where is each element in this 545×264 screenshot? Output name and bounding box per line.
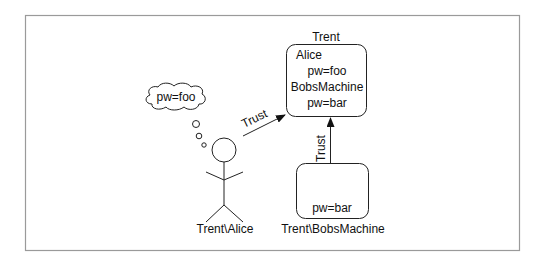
alice-trust-arrow: Trust: [239, 106, 285, 136]
trent-domain-box: Trent Alice pw=foo BobsMachine pw=bar: [287, 30, 367, 117]
user-stick-figure-icon: [206, 138, 243, 222]
thought-bubble-medium: [196, 133, 202, 139]
thought-bubble-small: [202, 143, 206, 147]
user-label: Trent\Alice: [197, 222, 254, 236]
bobs-machine-label: Trent\BobsMachine: [281, 222, 385, 236]
trent-line-alice: Alice: [296, 48, 322, 62]
bobs-machine-box: pw=bar Trent\BobsMachine: [281, 164, 385, 237]
machine-trust-arrow: Trust: [314, 118, 331, 163]
diagram-canvas: Trent Alice pw=foo BobsMachine pw=bar pw…: [0, 0, 545, 264]
machine-trust-label: Trust: [314, 134, 328, 162]
trent-box-title: Trent: [312, 30, 340, 44]
thought-cloud: pw=foo: [146, 83, 206, 147]
alice-trust-label: Trust: [239, 106, 270, 131]
trent-line-pw-foo: pw=foo: [307, 64, 346, 78]
thought-text: pw=foo: [156, 90, 195, 104]
diagram-frame: [26, 16, 520, 251]
thought-bubble-large: [193, 121, 200, 128]
bobs-machine-content: pw=bar: [312, 201, 352, 215]
trent-line-bobsmachine: BobsMachine: [291, 80, 364, 94]
trent-line-pw-bar: pw=bar: [307, 96, 347, 110]
